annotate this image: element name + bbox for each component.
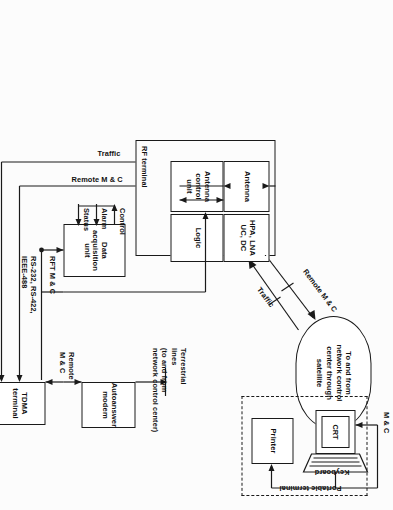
printer-label: Printer (268, 428, 277, 453)
label-terrestrial-lines: Terrestrial lines (to and from network c… (150, 348, 187, 432)
bus-label-standards: RS-232, RS-422, IEEE-488 (19, 256, 38, 314)
block-logic[interactable]: Logic (170, 214, 223, 262)
block-antenna[interactable]: Antenna (223, 161, 269, 212)
block-antenna-control-unit-label: Antenna control unit (183, 171, 210, 202)
link-label-modem-remote-mc: Remote M & C (57, 352, 76, 380)
block-hpa-lna-uc-dc-label: HPA, LNA UC, DC (237, 220, 255, 256)
signal-label-alarm: Alarm (98, 208, 107, 229)
trunk-label-traffic: Traffic (97, 150, 120, 159)
block-data-acquisition-unit-label: Data acquisition unit (81, 230, 108, 271)
block-autoanswer-modem[interactable]: Autoanswer modem (81, 382, 135, 428)
crt-screen: CRT (321, 416, 349, 448)
block-printer[interactable]: Printer (251, 418, 293, 464)
portable-terminal-label: Portable terminal (279, 483, 341, 492)
link-label-tdma-mc: M & C (380, 412, 389, 433)
link-label-traffic: Traffic (254, 286, 275, 310)
block-hpa-lna-uc-dc[interactable]: HPA, LNA UC, DC (223, 214, 269, 262)
signal-label-status: Status (80, 208, 89, 231)
block-antenna-control-unit[interactable]: Antenna control unit (170, 161, 223, 212)
block-tdma-terminal[interactable]: TDMA terminal (0, 382, 45, 425)
bus-label-rft-mc: RFT M & C (46, 256, 55, 294)
figure-page: To and from network control center throu… (0, 0, 393, 510)
keyboard-label: Keyboard (314, 467, 349, 476)
block-antenna-label: Antenna (242, 171, 251, 202)
rf-terminal-title: RF terminal (138, 146, 147, 188)
signal-label-control: Control (116, 208, 125, 235)
crt-label: CRT (331, 424, 340, 439)
block-logic-label: Logic (192, 228, 201, 249)
block-autoanswer-modem-label: Autoanswer modem (99, 383, 117, 427)
trunk-label-remote-mc: Remote M & C (71, 176, 122, 185)
diagram-canvas: To and from network control center throu… (0, 0, 393, 510)
satellite-link-cloud-label: To and from network control center throu… (314, 345, 353, 402)
block-tdma-terminal-label: TDMA terminal (9, 388, 27, 418)
link-label-remote-mc: Remote M & C (300, 268, 338, 314)
